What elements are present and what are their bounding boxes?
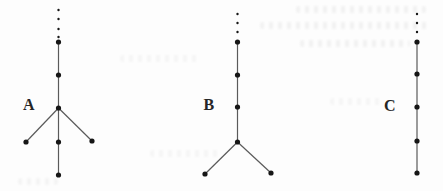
continuation-dot-A	[57, 28, 59, 30]
node-dot-A	[56, 39, 61, 44]
node-dot-C	[414, 170, 419, 175]
node-dot-A	[89, 138, 94, 143]
node-dot-B	[235, 39, 240, 44]
continuation-dot-C	[416, 13, 418, 15]
continuation-dot-B	[236, 31, 238, 33]
branch-edge-B	[238, 142, 272, 173]
node-dot-A	[56, 105, 61, 110]
node-dot-B	[235, 72, 240, 77]
node-dot-B	[235, 104, 240, 109]
diagram-label-a: A	[23, 97, 35, 113]
node-dot-C	[414, 71, 419, 76]
diagram-label-c: C	[384, 98, 396, 114]
node-dot-A	[56, 72, 61, 77]
node-dot-B	[268, 170, 273, 175]
node-dot-B	[202, 171, 207, 176]
node-dot-B	[235, 139, 240, 144]
branch-edge-A	[59, 108, 93, 141]
tree-diagrams-figure: A B C	[0, 0, 443, 191]
tree-diagrams-canvas	[0, 0, 443, 191]
node-dot-A	[56, 172, 61, 177]
node-dot-A	[56, 139, 61, 144]
continuation-dot-A	[57, 18, 59, 20]
node-dot-C	[414, 39, 419, 44]
node-dot-A	[23, 139, 28, 144]
continuation-dot-C	[416, 22, 418, 24]
continuation-dot-A	[57, 9, 59, 11]
node-dot-C	[414, 138, 419, 143]
node-dot-C	[414, 104, 419, 109]
branch-edge-A	[26, 108, 59, 142]
diagram-label-b: B	[203, 97, 214, 113]
continuation-dot-B	[236, 22, 238, 24]
continuation-dot-C	[416, 31, 418, 33]
continuation-dot-B	[236, 13, 238, 15]
branch-edge-B	[205, 142, 238, 174]
continuation-dot-A	[57, 36, 59, 38]
